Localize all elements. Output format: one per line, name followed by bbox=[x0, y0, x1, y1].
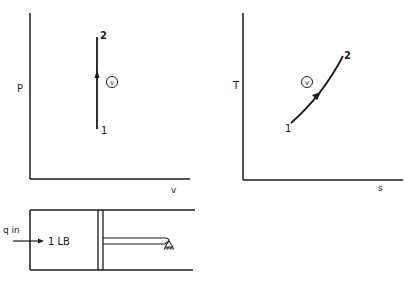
pv-y-label: P bbox=[17, 83, 23, 94]
heat-arrow-head-icon bbox=[38, 239, 44, 244]
pv-arrow-icon bbox=[95, 70, 100, 78]
pv-process-tag: v bbox=[110, 79, 114, 87]
mass-label: 1 LB bbox=[48, 236, 70, 247]
ts-y-label: T bbox=[232, 80, 240, 91]
piston-cylinder: q in 1 LB bbox=[3, 210, 195, 270]
ts-process-tag: v bbox=[305, 79, 309, 87]
heat-in-label: q in bbox=[3, 225, 20, 235]
ts-x-label: s bbox=[378, 183, 383, 193]
ts-chart: T s 2 1 v bbox=[232, 13, 403, 193]
pv-x-label: v bbox=[171, 185, 177, 195]
pv-state-2: 2 bbox=[100, 30, 107, 41]
ts-arrow-icon bbox=[312, 92, 321, 100]
diagram-canvas: P v 2 1 v T s 2 1 v bbox=[0, 0, 404, 284]
pin-support-icon bbox=[164, 238, 174, 250]
ts-state-2: 2 bbox=[344, 50, 351, 61]
ts-state-1: 1 bbox=[285, 123, 291, 134]
pv-chart: P v 2 1 v bbox=[17, 13, 190, 195]
pv-state-1: 1 bbox=[101, 125, 107, 136]
ts-process-curve bbox=[291, 56, 343, 123]
